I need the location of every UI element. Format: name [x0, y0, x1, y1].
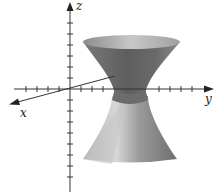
z-arrow-icon	[67, 2, 74, 11]
x-arrow-icon	[9, 99, 20, 106]
upper-sheet	[83, 35, 180, 95]
x-axis-label: x	[20, 107, 27, 119]
hyperboloid-plot	[0, 0, 220, 195]
z-axis-label: z	[76, 0, 82, 12]
figure: z y x	[0, 0, 220, 195]
axes	[14, 8, 208, 192]
y-axis-label: y	[205, 93, 212, 105]
lower-sheet	[83, 96, 177, 164]
